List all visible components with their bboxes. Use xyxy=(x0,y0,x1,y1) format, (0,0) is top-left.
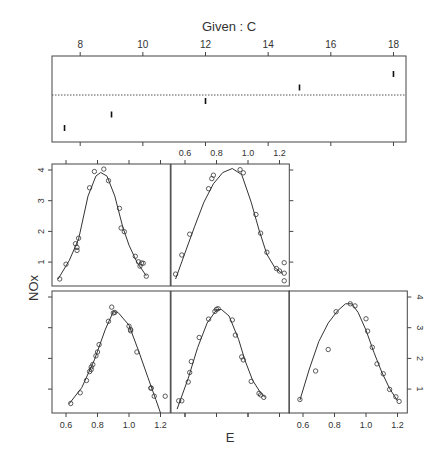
data-point xyxy=(326,347,330,351)
data-point xyxy=(197,335,201,339)
data-point xyxy=(189,359,193,363)
data-point xyxy=(241,171,245,175)
data-point xyxy=(78,391,82,395)
loess-curve xyxy=(176,169,283,280)
given-interval-bar xyxy=(393,71,395,77)
given-tick-label: 18 xyxy=(388,39,400,50)
x-tick-label: 1.0 xyxy=(123,420,136,430)
panel-frame xyxy=(52,164,170,286)
y-tick-label: 2 xyxy=(36,229,46,234)
data-point xyxy=(102,167,106,171)
axes: 0.60.81.01.20.60.81.01.2123412340.60.81.… xyxy=(36,148,425,430)
x-tick-label: 0.6 xyxy=(179,148,192,158)
y-tick-label: 4 xyxy=(36,167,46,172)
panel-frame xyxy=(171,164,289,286)
x-tick-label: 0.8 xyxy=(210,148,223,158)
data-point xyxy=(92,169,96,173)
x-tick-label: 1.0 xyxy=(360,420,373,430)
data-point xyxy=(188,232,192,236)
panel-C-7.5 xyxy=(52,291,170,413)
x-tick-label: 0.6 xyxy=(297,420,310,430)
given-tick-label: 10 xyxy=(137,39,149,50)
x-tick-label: 1.2 xyxy=(273,148,286,158)
given-interval-bar xyxy=(299,85,301,91)
coplot-figure: Given : C 81012141618 0.60.81.01.20.60.8… xyxy=(0,0,443,465)
given-panel: 81012141618 xyxy=(52,39,406,146)
given-interval-bar xyxy=(111,112,113,118)
given-interval-bar xyxy=(64,125,66,131)
y-tick-label: 1 xyxy=(36,260,46,265)
loess-curve xyxy=(69,312,160,413)
panel-C-18 xyxy=(171,164,289,286)
x-tick-label: 1.0 xyxy=(242,148,255,158)
x-tick-label: 1.2 xyxy=(154,420,167,430)
conditioning-panels xyxy=(52,164,407,413)
y-tick-label: 2 xyxy=(415,356,425,361)
data-point xyxy=(397,399,401,403)
x-tick-label: 0.8 xyxy=(328,420,341,430)
given-panel-frame xyxy=(52,56,406,142)
loess-curve xyxy=(58,173,146,280)
panel-frame xyxy=(289,291,407,413)
data-point xyxy=(144,274,148,278)
y-axis-label: NOx xyxy=(26,275,41,302)
x-tick-label: 0.8 xyxy=(91,420,104,430)
y-tick-label: 3 xyxy=(36,198,46,203)
given-tick-label: 14 xyxy=(263,39,275,50)
given-tick-label: 16 xyxy=(325,39,337,50)
loess-curve xyxy=(300,304,398,401)
data-point xyxy=(180,253,184,257)
panel-C-15 xyxy=(52,164,170,286)
data-point xyxy=(110,305,114,309)
data-point xyxy=(282,271,286,275)
panel-C-9 xyxy=(171,291,289,413)
y-tick-label: 1 xyxy=(415,387,425,392)
data-point xyxy=(313,369,317,373)
x-tick-label: 1.2 xyxy=(391,420,404,430)
y-tick-label: 3 xyxy=(415,325,425,330)
given-tick-label: 8 xyxy=(77,39,83,50)
given-panel-title: Given : C xyxy=(202,19,256,34)
data-point xyxy=(282,279,286,283)
panel-C-12 xyxy=(289,291,407,413)
given-tick-label: 12 xyxy=(200,39,212,50)
panel-frame xyxy=(171,291,289,413)
data-point xyxy=(364,317,368,321)
data-point xyxy=(75,248,79,252)
data-point xyxy=(282,261,286,265)
given-interval-bar xyxy=(205,98,207,104)
x-axis-label: E xyxy=(226,430,235,445)
x-tick-label: 0.6 xyxy=(60,420,73,430)
y-tick-label: 4 xyxy=(415,294,425,299)
data-point xyxy=(163,394,167,398)
data-point xyxy=(206,187,210,191)
